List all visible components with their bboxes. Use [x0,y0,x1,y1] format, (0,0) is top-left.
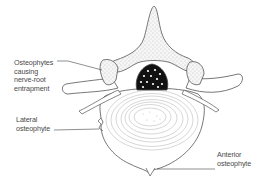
spinal-canal-fill [136,64,168,90]
leader-line-nerve-root [57,61,102,70]
leader-line-lateral [54,129,99,130]
vertebral-body [98,88,204,176]
vertebra-diagram: Osteophytes causing nerve-root entrapmen… [0,0,267,181]
facet-osteophyte-right [187,62,204,85]
label-nerve-root-osteophytes: Osteophytes causing nerve-root entrapmen… [14,59,60,93]
spinous-process [107,6,196,72]
label-anterior-osteophyte: Anterior osteophyte [217,151,265,168]
spinal-canal [136,64,168,90]
vertebral-body-outline [100,88,204,174]
label-lateral-osteophyte: Lateral osteophyte [16,116,56,133]
